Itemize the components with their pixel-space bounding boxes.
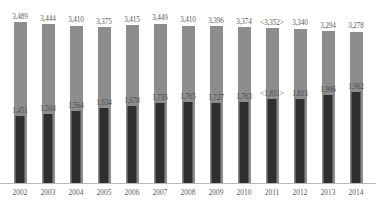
bar-total-label: 3,396: [208, 17, 224, 25]
bar-subset-label: 1,962: [348, 83, 364, 91]
bar-subset-label: 1,634: [96, 99, 112, 107]
bar-total[interactable]: 3,374 1,763: [238, 27, 251, 183]
plot-area: 3,489 1,451 3,444 1,504 3,410 1,564: [0, 0, 376, 183]
bar-group: 3,374 1,763: [230, 0, 258, 183]
x-tick: 2010: [230, 186, 258, 207]
bar-group: 3,415 1,678: [118, 0, 146, 183]
bar-subset[interactable]: 1,962: [352, 92, 361, 183]
bar-total[interactable]: 3,340 1,813: [294, 29, 307, 183]
bar-total[interactable]: <3,352> <1,811>: [266, 28, 279, 183]
bar-subset-label: 1,504: [40, 105, 56, 113]
bar-subset-label: 1,813: [292, 90, 308, 98]
bar-subset-label: 1,765: [180, 93, 196, 101]
bar-group: 3,340 1,813: [286, 0, 314, 183]
bar-subset[interactable]: 1,735: [156, 103, 165, 183]
bar-total[interactable]: 3,444 1,504: [42, 24, 55, 183]
bar-total-label: <3,352>: [260, 19, 284, 27]
bar-subset-label: 1,451: [12, 107, 28, 115]
bar-total-label: 3,375: [96, 18, 112, 26]
bar-group: 3,444 1,504: [34, 0, 62, 183]
bar-subset[interactable]: 1,763: [240, 102, 249, 183]
bar-total-label: 3,278: [348, 22, 364, 30]
x-tick: 2012: [286, 186, 314, 207]
bar-total[interactable]: 3,278 1,962: [350, 32, 363, 183]
bar-subset[interactable]: 1,504: [44, 114, 53, 183]
bar-group: 3,489 1,451: [6, 0, 34, 183]
x-tick: 2013: [314, 186, 342, 207]
bar-group: 3,449 1,735: [146, 0, 174, 183]
bar-total-label: 3,294: [320, 22, 336, 30]
bar-subset-label: 1,906: [320, 86, 336, 94]
bar-total-label: 3,374: [236, 18, 252, 26]
bar-group: 3,294 1,906: [314, 0, 342, 183]
x-tick: 2002: [6, 186, 34, 207]
x-tick: 2009: [202, 186, 230, 207]
x-tick: 2004: [62, 186, 90, 207]
bar-group: 3,278 1,962: [342, 0, 370, 183]
bar-total-label: 3,340: [292, 19, 308, 27]
bar-total[interactable]: 3,375 1,634: [98, 27, 111, 183]
x-axis-tick-labels: 2002 2003 2004 2005 2006 2007 2008 2009 …: [0, 186, 376, 207]
bar-group: 3,396 1,727: [202, 0, 230, 183]
bar-subset[interactable]: 1,451: [16, 116, 25, 183]
bar-total[interactable]: 3,410 1,564: [70, 26, 83, 183]
bar-group: 3,410 1,564: [62, 0, 90, 183]
bar-total[interactable]: 3,396 1,727: [210, 26, 223, 183]
bar-group: 3,375 1,634: [90, 0, 118, 183]
bar-subset-label: 1,763: [236, 93, 252, 101]
x-tick: 2011: [258, 186, 286, 207]
bar-total-label: 3,410: [68, 16, 84, 24]
bar-subset-label: 1,735: [152, 94, 168, 102]
bar-total-label: 3,444: [40, 15, 56, 23]
bar-total[interactable]: 3,449 1,735: [154, 24, 167, 183]
x-tick: 2003: [34, 186, 62, 207]
bar-group: <3,352> <1,811>: [258, 0, 286, 183]
bar-total[interactable]: 3,415 1,678: [126, 25, 139, 183]
bar-subset[interactable]: 1,678: [128, 106, 137, 183]
bar-total[interactable]: 3,489 1,451: [14, 22, 27, 183]
bar-subset[interactable]: <1,811>: [268, 99, 277, 183]
bar-subset[interactable]: 1,813: [296, 99, 305, 183]
bar-subset[interactable]: 1,727: [212, 103, 221, 183]
x-tick: 2008: [174, 186, 202, 207]
bar-chart: 3,489 1,451 3,444 1,504 3,410 1,564: [0, 0, 376, 207]
bar-subset-label: <1,811>: [260, 90, 283, 98]
bar-subset[interactable]: 1,564: [72, 111, 81, 183]
bar-total-label: 3,410: [180, 16, 196, 24]
x-tick: 2006: [118, 186, 146, 207]
x-tick: 2005: [90, 186, 118, 207]
x-tick: 2014: [342, 186, 370, 207]
bar-total[interactable]: 3,410 1,765: [182, 26, 195, 183]
x-tick: 2007: [146, 186, 174, 207]
bar-total-label: 3,449: [152, 14, 168, 22]
bar-subset[interactable]: 1,634: [100, 108, 109, 183]
bar-total-label: 3,489: [12, 13, 28, 21]
bar-total[interactable]: 3,294 1,906: [322, 31, 335, 183]
x-axis-line: [0, 183, 376, 184]
bar-total-label: 3,415: [124, 16, 140, 24]
bar-subset-label: 1,727: [208, 94, 224, 102]
bar-subset[interactable]: 1,765: [184, 102, 193, 183]
bar-subset-label: 1,678: [124, 97, 140, 105]
bar-subset-label: 1,564: [68, 102, 84, 110]
bar-subset[interactable]: 1,906: [324, 95, 333, 183]
bar-group: 3,410 1,765: [174, 0, 202, 183]
